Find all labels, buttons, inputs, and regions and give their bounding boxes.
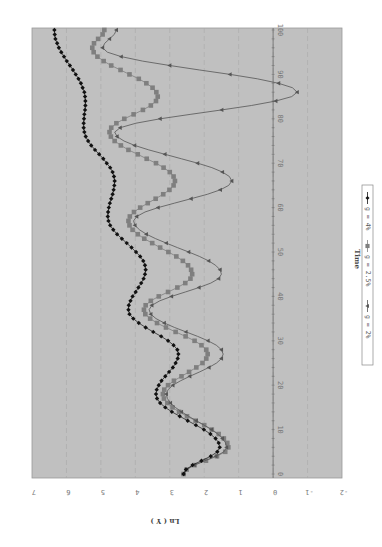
square-marker bbox=[135, 152, 140, 157]
square-marker bbox=[162, 396, 167, 401]
square-marker bbox=[144, 156, 149, 161]
chart: 0102030405060708090100 76543210-1-2 Ln (… bbox=[0, 0, 382, 547]
square-marker bbox=[171, 174, 176, 179]
square-marker bbox=[199, 343, 204, 348]
square-marker bbox=[194, 365, 199, 370]
square-marker bbox=[154, 161, 159, 166]
square-marker bbox=[109, 63, 114, 68]
square-marker bbox=[154, 90, 159, 95]
value-axis-title: Ln ( Y ) bbox=[151, 517, 180, 526]
time-tick-label: 20 bbox=[276, 381, 284, 389]
time-tick-label: 50 bbox=[276, 248, 284, 256]
square-marker bbox=[119, 143, 124, 148]
square-marker bbox=[166, 290, 171, 295]
square-marker bbox=[112, 139, 117, 144]
square-marker bbox=[200, 361, 205, 366]
square-marker bbox=[136, 77, 141, 82]
value-tick-label: 5 bbox=[101, 488, 105, 496]
square-marker bbox=[155, 321, 160, 326]
value-tick-label: 6 bbox=[66, 488, 70, 496]
square-marker bbox=[145, 201, 150, 206]
square-marker bbox=[114, 121, 119, 126]
square-marker bbox=[135, 232, 140, 237]
value-tick-label: 0 bbox=[273, 488, 277, 496]
square-marker bbox=[149, 299, 154, 304]
square-marker bbox=[90, 45, 95, 50]
time-tick-label: 0 bbox=[276, 472, 284, 476]
square-marker bbox=[102, 28, 107, 33]
square-marker bbox=[162, 387, 167, 392]
square-marker bbox=[142, 236, 147, 241]
square-marker bbox=[128, 214, 133, 219]
square-marker bbox=[164, 325, 169, 330]
square-marker bbox=[181, 259, 186, 264]
value-tick-label: -2 bbox=[340, 488, 348, 496]
square-marker bbox=[204, 356, 209, 361]
square-marker bbox=[188, 276, 193, 281]
square-marker bbox=[148, 316, 153, 321]
plot-area bbox=[32, 28, 342, 478]
time-tick-label: 60 bbox=[276, 203, 284, 211]
legend-items: g = 4%g = 2.5%g = 2% bbox=[364, 192, 372, 339]
square-marker bbox=[109, 134, 114, 139]
square-marker bbox=[154, 99, 159, 104]
square-marker bbox=[143, 312, 148, 317]
legend-label: g = 2% bbox=[364, 315, 372, 339]
value-tick-label: 4 bbox=[135, 488, 139, 496]
square-marker bbox=[174, 254, 179, 259]
square-marker bbox=[173, 179, 178, 184]
square-marker bbox=[126, 219, 131, 224]
square-marker bbox=[101, 59, 106, 64]
square-marker bbox=[127, 223, 132, 228]
square-marker bbox=[161, 165, 166, 170]
square-marker bbox=[138, 205, 143, 210]
square-marker bbox=[166, 383, 171, 388]
time-tick-label: 70 bbox=[276, 159, 284, 167]
square-marker bbox=[170, 405, 175, 410]
square-marker bbox=[365, 244, 369, 248]
square-marker bbox=[186, 263, 191, 268]
square-marker bbox=[149, 103, 154, 108]
square-marker bbox=[153, 196, 158, 201]
square-marker bbox=[192, 339, 197, 344]
time-tick-label: 40 bbox=[276, 292, 284, 300]
square-marker bbox=[132, 210, 137, 215]
value-tick-label: 3 bbox=[170, 488, 174, 496]
square-marker bbox=[96, 37, 101, 42]
square-marker bbox=[150, 85, 155, 90]
square-marker bbox=[167, 170, 172, 175]
square-marker bbox=[171, 183, 176, 188]
value-axis-ticks: 76543210-1-2 bbox=[32, 488, 348, 496]
legend-label: g = 4% bbox=[364, 207, 372, 231]
legend-label: g = 2.5% bbox=[364, 255, 372, 286]
square-marker bbox=[144, 81, 149, 86]
square-marker bbox=[167, 188, 172, 193]
square-marker bbox=[143, 303, 148, 308]
square-marker bbox=[95, 54, 100, 59]
square-marker bbox=[179, 374, 184, 379]
time-axis-title: Time bbox=[353, 249, 362, 269]
square-marker bbox=[187, 370, 192, 375]
value-tick-label: 1 bbox=[239, 488, 243, 496]
square-marker bbox=[122, 117, 127, 122]
square-marker bbox=[204, 347, 209, 352]
square-marker bbox=[91, 50, 96, 55]
square-marker bbox=[107, 130, 112, 135]
value-tick-label: 7 bbox=[32, 488, 36, 496]
square-marker bbox=[161, 192, 166, 197]
square-marker bbox=[166, 250, 171, 255]
square-marker bbox=[92, 41, 97, 46]
value-tick-label: 2 bbox=[204, 488, 208, 496]
square-marker bbox=[158, 245, 163, 250]
square-marker bbox=[205, 352, 210, 357]
square-marker bbox=[173, 330, 178, 335]
square-marker bbox=[130, 228, 135, 233]
square-marker bbox=[131, 112, 136, 117]
square-marker bbox=[109, 125, 114, 130]
square-marker bbox=[141, 108, 146, 113]
time-tick-label: 90 bbox=[276, 70, 284, 78]
time-tick-label: 100 bbox=[276, 24, 284, 37]
square-marker bbox=[156, 294, 161, 299]
time-tick-label: 30 bbox=[276, 337, 284, 345]
square-marker bbox=[189, 267, 194, 272]
